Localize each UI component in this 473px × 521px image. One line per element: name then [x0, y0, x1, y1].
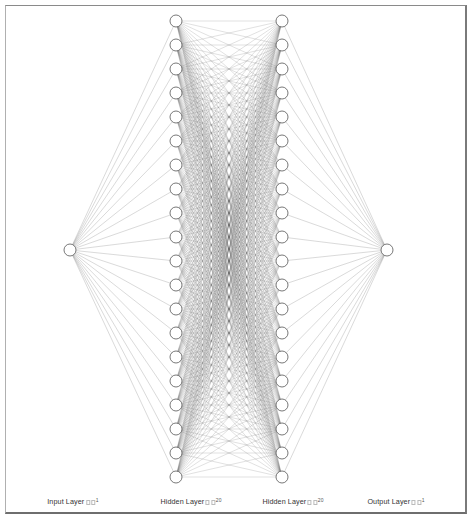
- connection-edge: [282, 250, 387, 357]
- connection-edge: [70, 250, 176, 333]
- neuron-node: [170, 231, 182, 243]
- connection-edge: [70, 250, 176, 453]
- neuron-node: [170, 471, 182, 483]
- neuron-node: [276, 111, 288, 123]
- neuron-node: [276, 87, 288, 99]
- connection-edge: [282, 250, 387, 477]
- neuron-node: [170, 135, 182, 147]
- hidden-layer-1-label: Hidden Layer20: [160, 497, 221, 506]
- hidden-layer-2-label: Hidden Layer20: [262, 497, 323, 506]
- neuron-node: [276, 15, 288, 27]
- connection-edge: [70, 165, 176, 250]
- connection-edge: [282, 250, 387, 309]
- neuron-node: [170, 279, 182, 291]
- missing-glyph-icon: [91, 500, 95, 505]
- neuron-node: [276, 231, 288, 243]
- neuron-node: [276, 327, 288, 339]
- input-layer-label: Input Layer1: [47, 497, 98, 506]
- connection-edge: [70, 250, 176, 309]
- neuron-node: [276, 351, 288, 363]
- connection-edge: [70, 250, 176, 405]
- connection-edge: [282, 250, 387, 285]
- connection-edge: [70, 250, 176, 381]
- connection-edge: [282, 21, 387, 250]
- neuron-node: [276, 63, 288, 75]
- connection-edge: [70, 250, 176, 357]
- connection-edge: [282, 165, 387, 250]
- neuron-node: [276, 255, 288, 267]
- neuron-node: [276, 279, 288, 291]
- connection-edge: [70, 237, 176, 250]
- neuron-node: [276, 375, 288, 387]
- neuron-node: [170, 111, 182, 123]
- neuron-node: [170, 39, 182, 51]
- connection-edge: [282, 45, 387, 250]
- connection-edge: [282, 250, 387, 333]
- output-layer-dimension: 1: [422, 497, 425, 503]
- hidden-layer-1-dimension: 20: [216, 497, 222, 503]
- connection-edge: [282, 237, 387, 250]
- neuron-node: [276, 135, 288, 147]
- neuron-node: [170, 399, 182, 411]
- output-layer-label: Output Layer1: [367, 497, 424, 506]
- connection-edge: [282, 250, 387, 381]
- neuron-node: [170, 207, 182, 219]
- missing-glyph-icon: [308, 500, 312, 505]
- connection-edge: [70, 141, 176, 250]
- connection-edge: [70, 250, 176, 477]
- neuron-node: [276, 423, 288, 435]
- input-layer-label-text: Input Layer: [47, 497, 84, 506]
- missing-glyph-icon: [412, 500, 416, 505]
- neuron-node: [170, 423, 182, 435]
- missing-glyph-icon: [206, 500, 210, 505]
- connection-edge: [70, 250, 176, 285]
- output-layer-label-text: Output Layer: [367, 497, 410, 506]
- neuron-node: [170, 303, 182, 315]
- hidden-layer-2-dimension: 20: [318, 497, 324, 503]
- connection-edge: [282, 117, 387, 250]
- neuron-node: [276, 471, 288, 483]
- neuron-node: [64, 244, 76, 256]
- connection-edge: [282, 69, 387, 250]
- neural-network-diagram: [0, 0, 473, 521]
- connection-edge: [282, 93, 387, 250]
- neuron-node: [276, 207, 288, 219]
- neuron-node: [276, 399, 288, 411]
- neuron-node: [170, 351, 182, 363]
- neuron-node: [276, 303, 288, 315]
- connection-edge: [70, 93, 176, 250]
- connection-edge: [70, 213, 176, 250]
- neuron-node: [170, 87, 182, 99]
- connection-edge: [70, 69, 176, 250]
- neuron-node: [170, 183, 182, 195]
- connection-edges: [70, 21, 387, 477]
- connection-edge: [282, 141, 387, 250]
- neuron-node: [170, 255, 182, 267]
- missing-glyph-icon: [86, 500, 90, 505]
- connection-edge: [282, 250, 387, 429]
- neuron-node: [170, 159, 182, 171]
- input-layer-dimension: 1: [96, 497, 99, 503]
- neuron-node: [170, 63, 182, 75]
- neuron-node: [170, 15, 182, 27]
- hidden-layer-2-label-text: Hidden Layer: [262, 497, 306, 506]
- neuron-node: [276, 39, 288, 51]
- connection-edge: [70, 21, 176, 250]
- connection-edge: [70, 117, 176, 250]
- neuron-node: [381, 244, 393, 256]
- connection-edge: [282, 213, 387, 250]
- neuron-node: [170, 375, 182, 387]
- neuron-node: [276, 183, 288, 195]
- connection-edge: [70, 250, 176, 429]
- connection-edge: [70, 45, 176, 250]
- neuron-node: [170, 327, 182, 339]
- neuron-node: [276, 159, 288, 171]
- neuron-node: [170, 447, 182, 459]
- connection-edge: [282, 250, 387, 453]
- connection-edge: [282, 250, 387, 261]
- neuron-node: [276, 447, 288, 459]
- connection-edge: [282, 250, 387, 405]
- connection-edge: [70, 250, 176, 261]
- hidden-layer-1-label-text: Hidden Layer: [160, 497, 204, 506]
